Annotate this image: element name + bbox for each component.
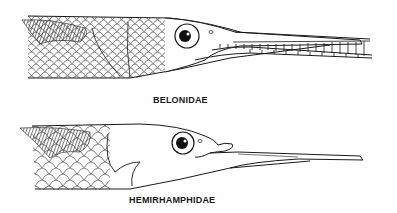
figure-label-hemirhamphidae: HEMIRHAMPHIDAE — [129, 195, 215, 205]
fish-illustrations — [0, 0, 397, 213]
figure-label-belonidae: BELONIDAE — [153, 95, 208, 105]
belonidae-fish — [22, 16, 372, 78]
hemirhamphidae-fish — [20, 124, 363, 190]
fish-comparison-figure: BELONIDAE HEMIRHAMPHIDAE — [0, 0, 397, 213]
eye-icon — [175, 24, 199, 48]
eye-icon — [172, 132, 194, 154]
